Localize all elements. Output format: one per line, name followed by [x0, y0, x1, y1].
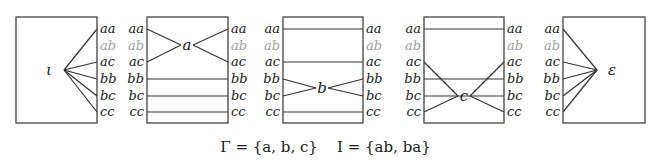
- edge-out-bc: [328, 88, 363, 96]
- row-label-ac: ac: [406, 54, 422, 69]
- edge-in-ac: [147, 45, 181, 62]
- box-outline: [147, 17, 228, 123]
- node-label-epsilon: ε: [608, 61, 616, 79]
- node-label-iota: ι: [46, 61, 52, 79]
- box-outline: [424, 17, 504, 123]
- node-label-b: b: [317, 79, 327, 97]
- row-label-bc: bc: [264, 88, 280, 103]
- edge-out-ac: [193, 45, 228, 62]
- row-label-bb: bb: [366, 71, 383, 86]
- row-label-aa: aa: [231, 21, 247, 36]
- row-label-aa: aa: [366, 21, 382, 36]
- row-label-cc: cc: [100, 104, 115, 119]
- row-label-bb: bb: [543, 71, 560, 86]
- row-label-bb: bb: [263, 71, 280, 86]
- edge-out-aa: [193, 29, 228, 45]
- row-label-bc: bc: [405, 88, 421, 103]
- component-box-c: caaaaababacacbbbbbcbccccc: [404, 17, 523, 123]
- box-outline: [283, 17, 363, 123]
- node-label-a: a: [183, 36, 192, 54]
- row-label-ac: ac: [129, 54, 145, 69]
- row-label-ab: ab: [231, 38, 247, 53]
- row-label-bb: bb: [404, 71, 421, 86]
- component-box-epsilon: εaaabacbbbccc: [543, 17, 645, 123]
- row-label-ab: ab: [264, 38, 280, 53]
- caption: Γ = {a, b, c} I = {ab, ba}: [0, 138, 651, 156]
- row-label-bb: bb: [100, 71, 117, 86]
- row-label-cc: cc: [366, 104, 381, 119]
- row-label-bc: bc: [366, 88, 382, 103]
- component-box-b: baaaaababacacbbbbbcbccccc: [263, 17, 382, 123]
- row-label-aa: aa: [405, 21, 421, 36]
- row-label-aa: aa: [128, 21, 144, 36]
- row-label-aa: aa: [507, 21, 523, 36]
- row-label-ac: ac: [545, 54, 561, 69]
- row-label-bc: bc: [100, 88, 116, 103]
- edge-out-aa: [64, 29, 97, 70]
- row-label-cc: cc: [265, 104, 280, 119]
- row-label-bb: bb: [127, 71, 144, 86]
- alphabet-definition: Γ = {a, b, c}: [220, 138, 318, 156]
- row-label-bc: bc: [507, 88, 523, 103]
- row-label-ac: ac: [231, 54, 247, 69]
- row-label-ab: ab: [507, 38, 523, 53]
- row-label-cc: cc: [545, 104, 560, 119]
- row-label-ab: ab: [366, 38, 382, 53]
- row-label-bb: bb: [231, 71, 248, 86]
- row-label-cc: cc: [231, 104, 246, 119]
- row-label-bc: bc: [544, 88, 560, 103]
- box-outline: [16, 17, 97, 123]
- row-label-aa: aa: [544, 21, 560, 36]
- edge-out-cc: [470, 96, 504, 112]
- edge-in-aa: [563, 29, 597, 70]
- node-label-c: c: [460, 87, 469, 105]
- row-label-ab: ab: [544, 38, 560, 53]
- edge-in-bc: [283, 88, 316, 96]
- box-outline: [563, 17, 645, 123]
- edge-in-aa: [147, 29, 181, 45]
- edge-in-bb: [283, 79, 316, 88]
- independence-relation: I = {ab, ba}: [337, 138, 431, 156]
- row-label-cc: cc: [406, 104, 421, 119]
- row-label-cc: cc: [129, 104, 144, 119]
- row-label-ab: ab: [128, 38, 144, 53]
- row-label-aa: aa: [264, 21, 280, 36]
- row-label-ac: ac: [507, 54, 523, 69]
- edge-in-cc: [563, 70, 597, 112]
- row-label-bc: bc: [231, 88, 247, 103]
- edge-in-cc: [424, 96, 458, 112]
- row-label-ac: ac: [100, 54, 116, 69]
- row-label-aa: aa: [100, 21, 116, 36]
- component-box-a: aaaaaababacacbbbbbcbccccc: [127, 17, 247, 123]
- row-label-ac: ac: [265, 54, 281, 69]
- row-label-ac: ac: [366, 54, 382, 69]
- row-label-ab: ab: [405, 38, 421, 53]
- row-label-cc: cc: [507, 104, 522, 119]
- row-label-bc: bc: [128, 88, 144, 103]
- edge-out-cc: [64, 70, 97, 112]
- component-box-iota: ιaaabacbbbccc: [16, 17, 117, 123]
- edge-out-bb: [328, 79, 363, 88]
- row-label-ab: ab: [100, 38, 116, 53]
- row-label-bb: bb: [507, 71, 524, 86]
